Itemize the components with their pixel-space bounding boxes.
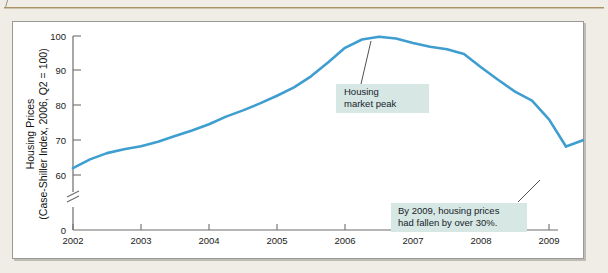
y-axis-title-line1: Housing Prices	[24, 99, 36, 170]
x-tick-label-2009: 2009	[538, 235, 559, 246]
y-tick-label-70: 70	[55, 135, 66, 146]
decline-callout-leader-line	[518, 180, 540, 202]
x-tick-label-2007: 2007	[402, 235, 423, 246]
peak-callout-line2: market peak	[344, 98, 397, 109]
figure-panel: 100 90 80 70 60 0 2002 2003 2004 2005	[12, 21, 584, 259]
y-tick-label-100: 100	[50, 31, 66, 42]
peak-callout-line1: Housing	[344, 86, 379, 97]
y-axis-title-line2: (Case-Shiller Index, 2006, Q2 = 100)	[37, 48, 49, 219]
header-rule-shadow	[4, 8, 604, 9]
chart-plot-area: 100 90 80 70 60 0 2002 2003 2004 2005	[13, 22, 585, 260]
y-axis-ticks	[73, 36, 81, 175]
annotation-housing-market-peak: Housing market peak	[336, 84, 429, 113]
x-tick-label-2008: 2008	[470, 235, 491, 246]
x-tick-label-2004: 2004	[198, 235, 219, 246]
y-tick-label-0: 0	[61, 225, 66, 236]
housing-price-line	[73, 37, 566, 168]
x-tick-label-2003: 2003	[130, 235, 151, 246]
annotation-decline-note: By 2009, housing prices had fallen by ov…	[391, 203, 527, 232]
housing-price-line-tail	[566, 140, 583, 146]
axis-break-icon	[67, 191, 79, 202]
y-tick-label-80: 80	[55, 100, 66, 111]
decline-callout-line2: had fallen by over 30%.	[398, 217, 497, 228]
x-tick-label-2006: 2006	[334, 235, 355, 246]
y-tick-label-90: 90	[55, 65, 66, 76]
line-chart: 100 90 80 70 60 0 2002 2003 2004 2005	[13, 22, 585, 260]
peak-callout-leader-line	[361, 41, 371, 84]
x-tick-label-2002: 2002	[62, 235, 83, 246]
y-tick-label-60: 60	[55, 170, 66, 181]
x-tick-label-2005: 2005	[266, 235, 287, 246]
decline-callout-line1: By 2009, housing prices	[398, 205, 500, 216]
